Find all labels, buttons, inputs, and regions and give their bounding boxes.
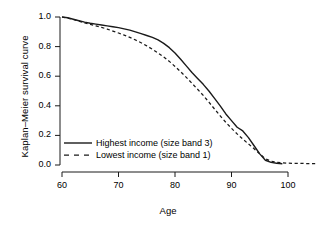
y-tick-label: 0.0 [25,159,51,169]
kaplan-meier-figure: Kaplan–Meier survival curve Age 60708090… [0,0,336,228]
x-axis-label: Age [0,205,336,216]
x-tick-label: 100 [273,180,303,190]
x-tick-label: 90 [217,180,247,190]
y-tick-label: 0.8 [25,41,51,51]
legend-label-lowest-income: Lowest income (size band 1) [96,150,211,160]
x-tick-label: 80 [160,180,190,190]
x-tick-label: 70 [104,180,134,190]
y-tick-label: 0.4 [25,100,51,110]
x-tick-label: 60 [47,180,77,190]
chart-canvas [0,0,336,228]
y-tick-label: 0.2 [25,129,51,139]
y-tick-label: 1.0 [25,11,51,21]
legend-label-highest-income: Highest income (size band 3) [96,138,213,148]
y-tick-label: 0.6 [25,70,51,80]
chart-background [0,0,336,228]
